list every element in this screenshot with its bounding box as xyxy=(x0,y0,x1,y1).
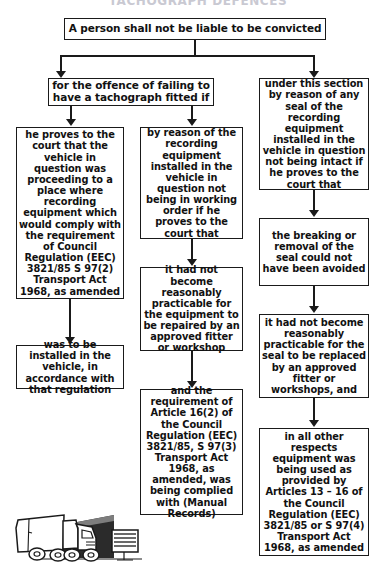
connector-branchright-to-c3n1 xyxy=(313,190,315,212)
node-c2-n3: and the requirement of Article 16(2) of … xyxy=(140,389,243,515)
node-root: A person shall not be liable to be convi… xyxy=(64,18,326,40)
wheel-hub-icon xyxy=(69,553,75,557)
connector-c3n2-to-c3n3 xyxy=(313,398,315,422)
node-c1-n1: he proves to the court that the vehicle … xyxy=(16,127,124,299)
arrow-root-to-left xyxy=(56,71,66,78)
node-c1-n1-label: he proves to the court that the vehicle … xyxy=(19,129,121,296)
node-branch-right-label: under this section by reason of any seal… xyxy=(262,78,366,190)
node-c3-n1: the breaking or removal of the seal coul… xyxy=(259,218,369,286)
connector-root-to-left xyxy=(60,55,62,72)
node-c2-n3-label: and the requirement of Article 16(2) of … xyxy=(143,385,240,519)
node-c3-n3-label: in all other respects equipment was bein… xyxy=(262,431,366,554)
node-branch-right: under this section by reason of any seal… xyxy=(259,78,369,190)
connector-root-down xyxy=(194,40,196,56)
wheel-hub-icon xyxy=(55,553,61,557)
arrow-branchright-to-c3n1 xyxy=(309,210,319,217)
arrow-branchleft-to-c1 xyxy=(66,119,76,126)
truck-illustration xyxy=(6,480,154,572)
node-c3-n2: it had not become reasonably practicable… xyxy=(259,314,369,398)
page-title-cutoff: TACHOGRAPH DEFENCES xyxy=(78,0,318,6)
trailer-body-icon xyxy=(16,515,64,552)
wheel-hub-icon xyxy=(88,553,94,557)
node-c2-n2-label: it had not become reasonably practicable… xyxy=(143,264,240,353)
connector-c1n1-to-c1n2 xyxy=(69,299,71,339)
node-c1-n2-label: was to be installed in the vehicle, in a… xyxy=(19,339,121,395)
node-branch-left: for the offence of failing to have a tac… xyxy=(48,78,214,106)
node-branch-left-label: for the offence of failing to have a tac… xyxy=(51,80,211,104)
connector-root-bus xyxy=(60,55,314,57)
arrow-c3n2-to-c3n3 xyxy=(309,420,319,427)
node-c2-n1: by reason of the recording equipment ins… xyxy=(140,127,243,239)
connector-root-to-right xyxy=(313,55,315,72)
node-c3-n2-label: it had not become reasonably practicable… xyxy=(262,317,366,395)
node-root-label: A person shall not be liable to be convi… xyxy=(67,23,323,35)
node-c3-n1-label: the breaking or removal of the seal coul… xyxy=(262,230,366,275)
node-c2-n2: it had not become reasonably practicable… xyxy=(140,267,243,351)
wheel-hub-icon xyxy=(34,552,40,556)
node-c1-n2: was to be installed in the vehicle, in a… xyxy=(16,345,124,389)
connector-c2n1-to-c2n2 xyxy=(191,239,193,261)
arrow-c3n1-to-c3n2 xyxy=(309,306,319,313)
arrow-branchleft-to-c2 xyxy=(187,119,197,126)
arrow-root-to-right xyxy=(309,71,319,78)
connector-c2n2-to-c2n3 xyxy=(191,351,193,383)
connector-c3n1-to-c3n2 xyxy=(313,286,315,308)
flowchart-canvas: TACHOGRAPH DEFENCES A person shall not b… xyxy=(0,0,389,575)
node-c3-n3: in all other respects equipment was bein… xyxy=(259,428,369,556)
node-c2-n1-label: by reason of the recording equipment ins… xyxy=(143,127,240,239)
